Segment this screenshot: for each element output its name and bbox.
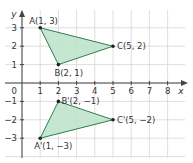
x-tick-label: 7: [147, 86, 152, 96]
origin-label: 0: [12, 86, 17, 96]
y-tick-label: 3: [12, 23, 17, 33]
x-axis-label: x: [177, 86, 184, 96]
point-label: B'(2, −1): [61, 96, 99, 106]
x-tick-label: 1: [37, 86, 42, 96]
y-tick-label: −3: [4, 133, 17, 143]
point-label: C'(5, −2): [117, 115, 155, 125]
y-tick-label: 1: [12, 60, 17, 70]
vertex-point: [111, 118, 115, 122]
x-tick-label: 6: [128, 86, 133, 96]
y-tick-label: −1: [4, 96, 17, 106]
y-axis-label: y: [10, 9, 17, 19]
axes: [5, 10, 188, 158]
coordinate-plane: 12345678321−1−2−30xyA(1, 3)B(2, 1)C(5, 2…: [0, 0, 193, 163]
vertex-point: [57, 63, 61, 67]
vertex-point: [111, 44, 115, 48]
vertex-point: [38, 26, 42, 30]
point-label: C(5, 2): [117, 41, 146, 51]
x-tick-label: 4: [92, 86, 97, 96]
x-tick-label: 5: [110, 86, 115, 96]
vertex-point: [38, 136, 42, 140]
y-tick-label: −2: [4, 115, 17, 125]
y-axis-arrow-icon: [19, 10, 25, 17]
x-tick-label: 8: [165, 86, 170, 96]
x-tick-label: 3: [74, 86, 79, 96]
y-tick-label: 2: [12, 41, 17, 51]
x-tick-label: 2: [56, 86, 61, 96]
point-label: B(2, 1): [54, 68, 83, 78]
point-label: A(1, 3): [29, 16, 58, 26]
vertex-point: [57, 100, 61, 104]
point-label: A'(1, −3): [34, 141, 72, 151]
